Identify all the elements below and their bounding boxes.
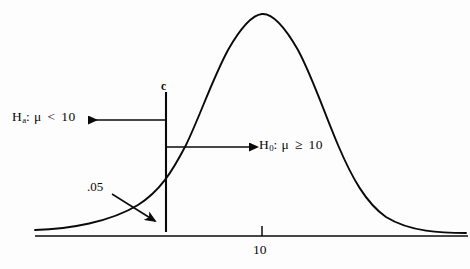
h0-value: 10 [309, 137, 323, 152]
alternative-hypothesis-label: Ha: μ < 10 [12, 110, 76, 125]
ha-operator: < [45, 109, 57, 124]
diagram-canvas [0, 0, 470, 269]
h0-parameter: μ [282, 137, 290, 152]
critical-value-label: c [161, 81, 166, 93]
significance-level-label: .05 [87, 180, 103, 193]
hypothesis-test-diagram: Ha: μ < 10 H0: μ ≥ 10 c .05 10 [0, 0, 470, 269]
ha-parameter: μ [34, 109, 42, 124]
ha-separator: : [26, 109, 30, 124]
normal-distribution-curve [35, 14, 466, 233]
h0-symbol: H [259, 137, 269, 152]
ha-symbol: H [12, 109, 22, 124]
h0-operator: ≥ [293, 137, 305, 152]
ha-value: 10 [61, 109, 75, 124]
x-axis-tick-label: 10 [253, 243, 267, 257]
null-hypothesis-label: H0: μ ≥ 10 [259, 138, 323, 153]
h0-separator: : [274, 137, 278, 152]
